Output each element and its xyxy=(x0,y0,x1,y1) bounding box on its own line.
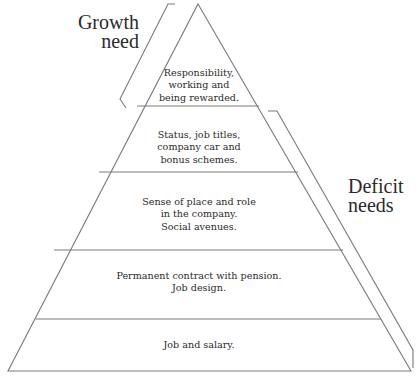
level-1-label: Job and salary. xyxy=(163,339,234,351)
level-3-label: Sense of place and role in the company. … xyxy=(142,196,256,233)
level-4-label: Status, job titles, company car and bonu… xyxy=(157,129,241,166)
growth-need-label: Growth need xyxy=(78,13,139,51)
deficit-needs-label: Deficit needs xyxy=(348,177,404,215)
level-5-label: Responsibility, working and being reward… xyxy=(159,67,239,104)
level-2-label: Permanent contract with pension. Job des… xyxy=(116,270,281,295)
deficit-needs-bracket xyxy=(268,111,413,368)
